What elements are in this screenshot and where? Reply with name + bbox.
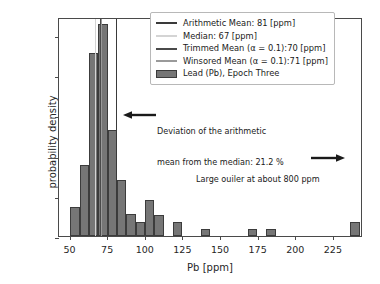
legend-marker-trimmed-mean: [156, 48, 177, 50]
chart-legend: Arithmetic Mean: 81 [ppm]Median: 67 [ppm…: [150, 12, 335, 85]
y-tick: [55, 158, 59, 159]
y-tick: [55, 198, 59, 199]
x-tick: [182, 236, 183, 240]
x-tick: [220, 236, 221, 240]
legend-label: Lead (Pb), Epoch Three: [183, 67, 279, 80]
legend-item-histogram-series: Lead (Pb), Epoch Three: [156, 67, 328, 80]
x-tick-label: 175: [249, 244, 267, 255]
histogram-bar: [117, 180, 126, 236]
histogram-bar: [126, 214, 135, 236]
x-tick: [333, 236, 334, 240]
x-tick: [107, 236, 108, 240]
x-tick-label: 150: [211, 244, 229, 255]
x-tick-label: 50: [63, 244, 75, 255]
x-tick: [295, 236, 296, 240]
x-tick: [70, 236, 71, 240]
histogram-bar: [89, 53, 98, 236]
x-axis-label: Pb [ppm]: [58, 262, 362, 273]
histogram-bar: [136, 222, 145, 236]
histogram-bar: [145, 200, 154, 236]
outlier-annotation-line1: Large ouiler at about 800 ppm: [196, 174, 320, 184]
x-tick-label: 100: [136, 244, 154, 255]
y-axis-label: probability density: [47, 95, 58, 188]
histogram-bar: [266, 229, 275, 236]
deviation-annotation-line1: Deviation of the arithmetic: [157, 126, 284, 136]
vline-winsored-mean: [101, 19, 102, 236]
x-tick: [145, 236, 146, 240]
vline-arithmetic-mean: [116, 19, 117, 236]
legend-marker-median: [156, 35, 177, 37]
x-tick: [258, 236, 259, 240]
legend-item-winsored-mean: Winsored Mean (α = 0.1):71 [ppm]: [156, 55, 328, 68]
y-tick: [55, 238, 59, 239]
x-tick-label: 75: [101, 244, 113, 255]
outlier-annotation-arrow-icon: [311, 153, 345, 163]
x-tick-label: 200: [286, 244, 304, 255]
legend-marker-histogram-series: [156, 70, 177, 78]
histogram-bar: [80, 165, 89, 236]
legend-marker-winsored-mean: [156, 60, 177, 62]
histogram-bar: [70, 207, 79, 236]
deviation-annotation-arrow-icon: [123, 110, 156, 120]
y-tick: [55, 77, 59, 78]
histogram-bar: [154, 215, 163, 236]
legend-label: Trimmed Mean (α = 0.1):70 [ppm]: [183, 42, 325, 55]
histogram-bar: [173, 222, 182, 236]
histogram-bar: [201, 229, 210, 236]
y-tick: [55, 37, 59, 38]
legend-item-trimmed-mean: Trimmed Mean (α = 0.1):70 [ppm]: [156, 42, 328, 55]
histogram-figure: probability density 0.000.010.020.030.04…: [0, 0, 380, 284]
legend-item-median: Median: 67 [ppm]: [156, 30, 328, 43]
histogram-bar: [350, 222, 359, 236]
histogram-bar: [248, 229, 257, 236]
vline-median: [95, 19, 96, 236]
legend-label: Winsored Mean (α = 0.1):71 [ppm]: [183, 55, 328, 68]
legend-marker-arithmetic-mean: [156, 22, 177, 24]
x-tick-label: 125: [173, 244, 191, 255]
legend-item-arithmetic-mean: Arithmetic Mean: 81 [ppm]: [156, 17, 328, 30]
y-tick: [55, 117, 59, 118]
x-tick-label: 225: [324, 244, 342, 255]
legend-label: Arithmetic Mean: 81 [ppm]: [183, 17, 295, 30]
legend-label: Median: 67 [ppm]: [183, 30, 257, 43]
outlier-annotation: Large ouiler at about 800 ppm: [196, 154, 320, 205]
